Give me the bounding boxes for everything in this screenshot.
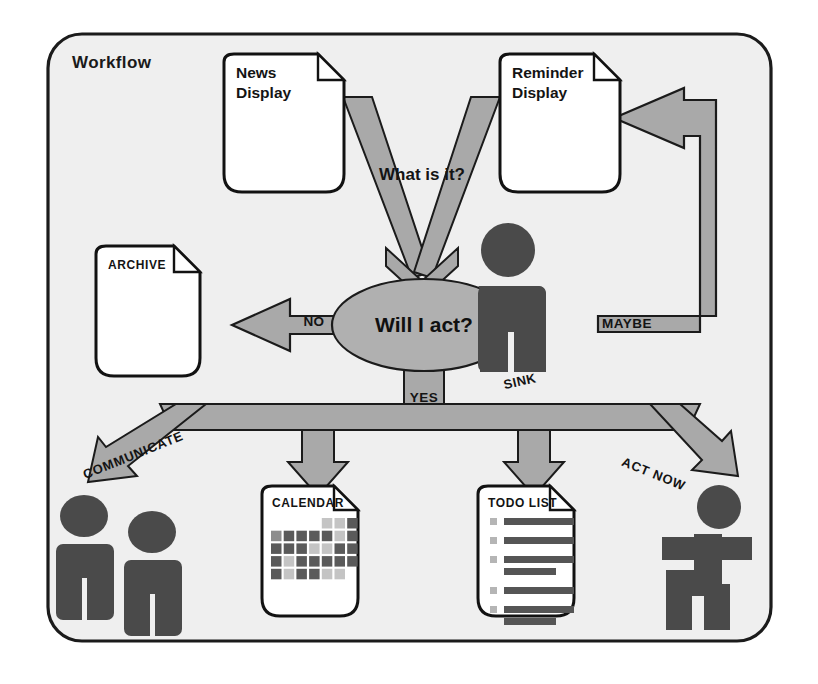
note-caption-todo: TODO LIST	[488, 496, 557, 510]
todo-text-bar	[504, 556, 574, 563]
todo-text-bar	[504, 587, 574, 594]
page-title: Workflow	[72, 53, 152, 72]
todo-bullet	[490, 518, 497, 525]
calendar-day-cell	[322, 556, 333, 567]
calendar-day-cell	[271, 556, 282, 567]
note-title-line2: Display	[512, 84, 568, 101]
note-calendar[interactable]: CALENDAR	[262, 486, 358, 616]
person-head-icon	[128, 511, 176, 553]
workflow-diagram-canvas: Workflow What is it? NO MAYBE YES COMMUN…	[0, 0, 818, 684]
calendar-day-cell	[296, 543, 307, 554]
note-title-line1: News	[236, 64, 277, 81]
calendar-day-cell	[271, 543, 282, 554]
calendar-day-cell	[271, 569, 282, 580]
calendar-day-cell	[284, 531, 295, 542]
calendar-day-cell	[335, 569, 346, 580]
decision-label: Will I act?	[375, 313, 473, 336]
calendar-day-cell	[335, 518, 346, 529]
calendar-day-cell	[284, 543, 295, 554]
todo-bullet	[490, 556, 497, 563]
note-caption-calendar: CALENDAR	[272, 496, 344, 510]
no-branch-label: NO	[303, 314, 324, 329]
calendar-day-cell	[309, 569, 320, 580]
calendar-day-cell	[322, 531, 333, 542]
calendar-day-cell	[309, 556, 320, 567]
todo-text-bar	[504, 518, 574, 525]
note-caption-archive: ARCHIVE	[108, 258, 166, 272]
runner-rear-leg-icon	[704, 584, 730, 630]
merge-arrow-label: What is it?	[379, 165, 465, 184]
calendar-day-cell	[284, 569, 295, 580]
todo-text-bar	[504, 568, 556, 575]
calendar-day-cell	[296, 569, 307, 580]
todo-text-bar	[504, 606, 574, 613]
note-title-line1: Reminder	[512, 64, 584, 81]
calendar-day-cell	[322, 518, 333, 529]
person-leg-gap-icon	[82, 578, 87, 622]
note-archive[interactable]: ARCHIVE	[96, 246, 200, 376]
runner-head-icon	[697, 485, 741, 529]
calendar-day-cell	[284, 556, 295, 567]
calendar-day-cell	[322, 569, 333, 580]
calendar-day-cell	[347, 531, 358, 542]
calendar-day-cell	[322, 543, 333, 554]
todo-text-bar	[504, 537, 574, 544]
maybe-branch-label: MAYBE	[602, 316, 652, 331]
person-leg-gap-icon	[150, 594, 155, 638]
todo-bullet	[490, 606, 497, 613]
calendar-day-cell	[309, 543, 320, 554]
workflow-diagram-svg: Workflow What is it? NO MAYBE YES COMMUN…	[0, 0, 818, 684]
calendar-day-cell	[347, 556, 358, 567]
person-standing-gap-icon	[508, 332, 514, 376]
todo-text-bar	[504, 618, 556, 625]
calendar-day-cell	[296, 556, 307, 567]
calendar-day-cell	[335, 531, 346, 542]
todo-bullet	[490, 537, 497, 544]
yes-bus	[160, 404, 700, 430]
calendar-day-cell	[335, 543, 346, 554]
yes-branch-label: YES	[410, 390, 439, 405]
note-title-line2: Display	[236, 84, 292, 101]
calendar-day-cell	[335, 556, 346, 567]
person-head-icon	[60, 495, 108, 537]
calendar-day-cell	[296, 531, 307, 542]
note-news-display[interactable]: News Display	[224, 54, 344, 192]
calendar-day-cell	[347, 518, 358, 529]
todo-bullet	[490, 587, 497, 594]
person-standing-icon	[481, 223, 535, 277]
note-todo-list[interactable]: TODO LIST	[478, 486, 574, 625]
calendar-day-cell	[271, 531, 282, 542]
calendar-day-cell	[347, 543, 358, 554]
runner-shin-icon	[666, 570, 692, 630]
note-reminder-display[interactable]: Reminder Display	[500, 54, 620, 192]
calendar-day-cell	[309, 531, 320, 542]
